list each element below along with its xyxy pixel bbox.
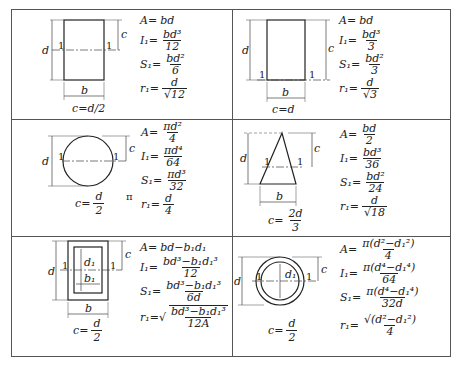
c-value-label: c=d/2 — [72, 102, 105, 115]
c-lhs: c= — [75, 197, 90, 210]
denominator: 6 — [170, 64, 181, 76]
numerator: d — [163, 193, 174, 204]
numerator: bd³−b₁d₁³ — [164, 280, 223, 291]
area-fraction: bd2 — [360, 123, 378, 146]
radius-gyration-lhs: r₁= — [339, 83, 358, 94]
section-modulus-lhs: S₁= — [140, 286, 161, 297]
numerator: bd² — [364, 171, 387, 182]
c-value-label: c= d2 — [73, 317, 102, 344]
inertia-lhs: I₁= — [340, 153, 358, 164]
numerator: d — [286, 317, 297, 330]
radius-gyration-lhs: r₁= — [140, 83, 159, 94]
c-lhs: c= — [73, 324, 88, 337]
c-fraction: d2 — [286, 317, 297, 344]
denominator: 3 — [366, 40, 377, 52]
dim-c-label: c — [328, 42, 334, 55]
axis-label: 1 — [297, 156, 303, 167]
dim-d1-label: d₁ — [285, 268, 296, 281]
c-lhs: c= — [268, 214, 283, 227]
denominator: 4 — [167, 132, 178, 144]
section-modulus-lhs: S₁= — [339, 59, 360, 70]
section-modulus-fraction: πd³32 — [165, 169, 188, 192]
formula-block: A=bd2 I₁=bd³36 S₁=bd²24 r₁=d√18 — [340, 122, 387, 218]
denominator: 12A — [185, 317, 211, 329]
dim-b-label: b — [81, 84, 88, 97]
denominator: 2 — [93, 203, 104, 217]
area-value: bd — [359, 15, 373, 26]
dim-d-label: d — [42, 44, 49, 57]
numerator: bd³−b₁d₁³ — [161, 256, 220, 267]
numerator: π(d⁴−d₁⁴) — [364, 286, 420, 297]
numerator: bd³ — [361, 147, 384, 158]
cell-hollow-rectangle: d c 1 1 d₁ b₁ b c= d2 A=bd−b₁d₁ I₁=bd³−b… — [12, 237, 232, 358]
numerator: bd³−b₁d₁³ — [169, 306, 228, 317]
formula-block: A=bd I₁=bd³3 S₁=bd²3 r₁=d√3 — [339, 12, 386, 100]
inertia-lhs: I₁= — [339, 35, 357, 46]
cell-hollow-circle: d c 1 1 d₁ c= d2 A=π(d²−d₁²)4 I₁=π(d⁴−d₁… — [232, 237, 452, 358]
denominator: √3 — [361, 88, 379, 100]
denominator: 2 — [286, 330, 297, 344]
c-value-label: c=d — [272, 103, 294, 116]
axis-label: 1 — [259, 69, 265, 80]
area-lhs: A= — [339, 15, 356, 26]
axis-label: 1 — [106, 40, 112, 51]
cell-circle: d c 1 1 π c= d2 A=πd²4 I₁=πd⁴64 S₁=πd³32… — [12, 120, 232, 236]
formula-block: A=π(d²−d₁²)4 I₁=π(d⁴−d₁⁴)64 S₁=π(d⁴−d₁⁴)… — [340, 237, 421, 337]
section-modulus-lhs: S₁= — [140, 59, 161, 70]
numerator: bd² — [363, 53, 386, 64]
dim-c-label: c — [321, 263, 327, 276]
dim-d-label: d — [42, 155, 49, 168]
formula-block: A=πd²4 I₁=πd⁴64 S₁=πd³32 r₁=d4 — [141, 120, 188, 216]
denominator: 32d — [380, 297, 405, 309]
radius-gyration-fraction: bd³−b₁d₁³12A — [169, 305, 228, 329]
numerator: d — [364, 77, 375, 88]
section-modulus-lhs: S₁= — [340, 292, 361, 303]
section-modulus-lhs: S₁= — [141, 175, 162, 186]
c-fraction: d2 — [91, 317, 102, 344]
numerator: d — [91, 317, 102, 330]
denominator: 6d — [185, 291, 203, 303]
dim-c-label: c — [129, 142, 135, 155]
dim-d-label: d — [240, 152, 247, 165]
inertia-fraction: bd³36 — [361, 147, 384, 170]
axis-label: 1 — [256, 271, 262, 282]
dim-d-label: d — [242, 44, 249, 57]
dim-c-label: c — [121, 28, 127, 41]
axis-label: 1 — [62, 260, 68, 271]
numerator: d — [369, 195, 380, 206]
numerator: bd³ — [161, 29, 184, 40]
denominator: 64 — [380, 273, 398, 285]
numerator: π(d²−d₁²) — [360, 238, 416, 249]
denominator: 2 — [91, 330, 102, 344]
area-lhs: A= — [141, 127, 158, 138]
axis-label: 1 — [58, 151, 64, 162]
cell-rectangle-base: d c 1 1 b c=d A=bd I₁=bd³3 S₁=bd²3 r₁=d√… — [232, 10, 452, 119]
section-modulus-fraction: bd³−b₁d₁³6d — [164, 280, 223, 303]
area-fraction: π(d²−d₁²)4 — [360, 238, 416, 261]
dim-d-label: d — [48, 265, 55, 278]
dim-c-label: c — [125, 248, 131, 261]
area-value: bd — [160, 15, 174, 26]
area-lhs: A= — [340, 129, 357, 140]
axis-label: 1 — [58, 40, 64, 51]
numerator: bd — [360, 123, 378, 134]
dim-b-label: b — [282, 86, 289, 99]
radius-gyration-fraction: d√18 — [362, 195, 387, 218]
denominator: √12 — [162, 88, 187, 100]
dim-b-label: b — [85, 302, 92, 315]
rectangle-diagram: d c 1 1 b c=d/2 — [12, 10, 232, 119]
denominator: 12 — [163, 40, 181, 52]
denominator: 4 — [384, 325, 395, 337]
denominator: 4 — [163, 204, 174, 216]
area-fraction: πd²4 — [161, 121, 184, 144]
dim-d-label: d — [234, 275, 241, 288]
radius-gyration-fraction: d4 — [163, 193, 174, 216]
denominator: √18 — [362, 206, 387, 218]
pi-note: π — [126, 191, 133, 202]
radius-gyration-lhs: r₁= — [141, 199, 160, 210]
radius-gyration-lhs: r₁=√ — [140, 312, 166, 323]
inertia-fraction: bd³−b₁d₁³12 — [161, 256, 220, 279]
axis-label: 1 — [113, 151, 119, 162]
inertia-fraction: bd³3 — [360, 29, 383, 52]
numerator: πd³ — [165, 169, 188, 180]
